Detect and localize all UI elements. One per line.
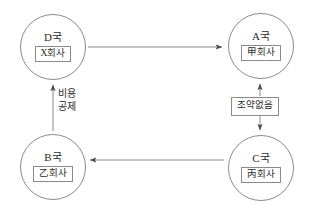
- country-label-d: D국: [44, 32, 62, 43]
- country-node-c: C국 丙회사: [228, 135, 294, 201]
- edge-label-cost-deduction: 비용 공제: [58, 88, 76, 113]
- country-label-a: A국: [252, 31, 270, 42]
- country-label-c: C국: [252, 153, 269, 164]
- country-node-d: D국 X회사: [20, 14, 86, 80]
- diagram-canvas: D국 X회사 A국 甲회사 B국 乙회사 C국 丙회사 비용 공제 조약없음: [0, 0, 312, 208]
- edge-label-no-treaty: 조약없음: [231, 97, 279, 116]
- country-label-b: B국: [44, 152, 61, 163]
- edge-label-cost-deduction-line1: 비용: [58, 88, 76, 101]
- company-box-gap: 甲회사: [241, 45, 281, 62]
- country-node-b: B국 乙회사: [20, 134, 86, 200]
- country-node-a: A국 甲회사: [228, 13, 294, 79]
- company-box-x: X회사: [35, 46, 72, 63]
- company-box-byeong: 丙회사: [241, 167, 281, 184]
- company-box-eul: 乙회사: [33, 166, 73, 183]
- edge-label-cost-deduction-line2: 공제: [58, 101, 76, 114]
